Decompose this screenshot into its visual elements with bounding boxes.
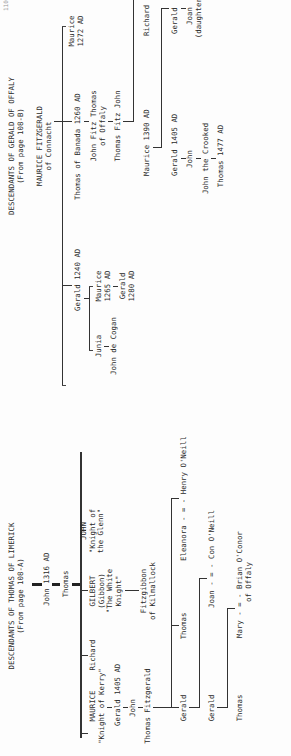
thomas-fitz-john: Thomas Fitz John — [114, 76, 123, 176]
thomas-limerick: Thomas — [62, 562, 71, 606]
document-page: 110 DESCENDANTS OF GERALD OF OFFALY (Fro… — [0, 0, 291, 756]
gerald-1240: Gerald 1240 AD — [74, 249, 83, 311]
gerald-limerick-1: Gerald — [180, 685, 189, 731]
gerald-tree-subtitle: (From page 108-B) — [17, 36, 26, 256]
john-1316: John 1316 AD — [43, 553, 52, 606]
junia: Junia — [95, 316, 104, 376]
john-the-crooked: John the Crooked — [202, 111, 211, 206]
gerald-1405-offaly: Gerald 1405 AD — [171, 114, 180, 176]
gerald-1405-limerick: Gerald 1405 AD — [114, 664, 123, 726]
thomas-main-spine — [80, 452, 82, 738]
gerald-1280: Gerald 1280 AD — [119, 266, 136, 306]
joan-con-oneill: Joan - = - Con O'Neill — [208, 510, 217, 608]
page-number: 110 — [2, 0, 11, 11]
maurice-1390: Maurice 1390 AD — [143, 109, 152, 176]
eleanora-henry-oneill: Eleanora - = - Henry O'Neill — [180, 436, 189, 561]
joan-daughter: Joan (daughter) — [186, 0, 203, 46]
gerald-limerick-2: Gerald — [208, 685, 217, 731]
gerald-main-spine — [62, 26, 63, 386]
mary-brian-oconor: Mary - = - Brian O'Conor of Offaly — [236, 531, 253, 638]
thomas-tree-subtitle: (From page 108-A) — [17, 476, 26, 716]
john-de-cogan: John de Cogan — [110, 306, 119, 386]
maurice-fitzgerald-connacht: MAURICE FITZGERALD of Connacht — [36, 56, 53, 236]
john-fitz-thomas-offaly: John Fitz Thomas of Offaly — [90, 76, 107, 176]
richard-limerick: Richard — [89, 632, 98, 678]
john-offaly: John — [186, 139, 195, 179]
maurice-1265: Maurice 1265 AD — [95, 266, 112, 306]
thomas-fitzgerald: Thomas Fitzgerald — [144, 656, 153, 756]
fitzgibbon-kilmallock: Fitzgibbon of Kilmallock — [140, 546, 157, 636]
thomas-limerick-3: Thomas — [236, 685, 245, 731]
thomas-of-banada-1260: Thomas of Banada 1260 AD — [74, 93, 83, 200]
john-knight-of-glenn: JOHN "Knight of the Glenn" — [80, 496, 106, 566]
maurice-1272: Maurice 1272 AD — [68, 6, 85, 56]
john-limerick: John — [129, 688, 138, 728]
richard-offaly: Richard — [143, 5, 152, 36]
thomas-1477: Thomas 1477 AD — [217, 116, 226, 196]
thomas-limerick-2: Thomas — [180, 603, 189, 649]
gerald-offaly-2: Gerald — [171, 7, 180, 34]
rotated-page-content: 110 DESCENDANTS OF GERALD OF OFFALY (Fro… — [0, 0, 291, 756]
